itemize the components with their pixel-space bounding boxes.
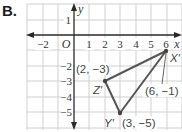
y-axis-label: y	[77, 2, 84, 16]
x-tick-5: 5	[148, 38, 154, 50]
y-tick-1: 1	[66, 14, 72, 26]
x-tick-2: 2	[102, 38, 108, 50]
x-tick-6: 6	[163, 38, 169, 50]
coord-label-z-prime: (2, −3)	[76, 63, 110, 75]
y-tick-neg3: −3	[60, 75, 72, 87]
vertex-z-prime	[103, 79, 107, 83]
y-tick-neg2: −2	[60, 60, 72, 72]
coord-label-x-prime: (6, −1)	[145, 85, 179, 97]
vertex-z-prime-name: Z′	[92, 84, 103, 96]
coord-label-y-prime: (3, −5)	[122, 117, 156, 129]
x-tick-3: 3	[117, 38, 123, 50]
vertex-y-prime	[118, 111, 122, 115]
coordinate-plane: −2 O 1 2 3 4 5 6 x y 1 −2 −3 −4 −5	[0, 0, 182, 132]
x-axis-label: x	[173, 37, 180, 51]
vertex-x-prime-name: X′	[169, 52, 181, 64]
y-tick-neg4: −4	[60, 91, 72, 103]
vertex-x-prime	[164, 49, 168, 53]
origin-label: O	[62, 37, 71, 51]
leader-line-x-prime	[162, 53, 166, 84]
vertex-y-prime-name: Y′	[104, 117, 115, 129]
coordinate-figure: B.	[0, 0, 182, 132]
x-tick-neg2: −2	[37, 38, 49, 50]
y-axis-down-arrow-icon	[71, 122, 77, 130]
y-tick-neg5: −5	[60, 106, 72, 118]
x-tick-4: 4	[133, 38, 139, 50]
x-tick-1: 1	[86, 38, 92, 50]
